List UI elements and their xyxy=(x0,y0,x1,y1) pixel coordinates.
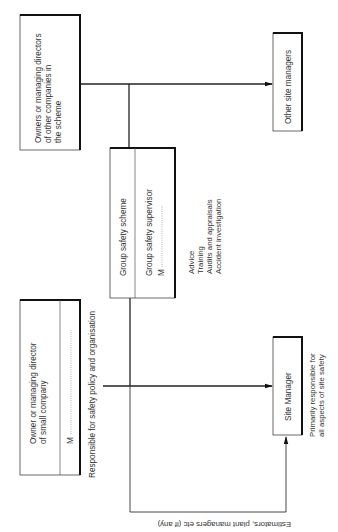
estimators-label: Estimators, plant managers etc (if any) xyxy=(157,520,291,529)
other-site-managers-box: Other site managers xyxy=(273,33,302,131)
site-manager-note: Primarily responsible for all aspects of… xyxy=(308,353,326,437)
group-duties-list: Advice Training Audits and appraisals Ac… xyxy=(187,199,223,274)
responsibility-label: Responsible for safety policy and organi… xyxy=(88,311,97,478)
duty-item: Training xyxy=(196,246,205,274)
site-manager-note-line-1: Primarily responsible for xyxy=(308,353,317,437)
group-scheme-title: Group safety scheme xyxy=(119,198,128,276)
other-site-managers-label: Other site managers xyxy=(284,50,293,124)
other-companies-line-3: the scheme xyxy=(54,100,63,143)
group-supervisor-name-prefix: M xyxy=(157,269,166,276)
other-companies-box: Owners or managing directors of other co… xyxy=(20,15,80,150)
duty-item: Audits and appraisals xyxy=(205,199,214,274)
connector-estimators-loop xyxy=(130,386,286,512)
group-supervisor-label: Group safety supervisor xyxy=(145,189,154,276)
safety-organisation-diagram: Owners or managing directors of other co… xyxy=(0,0,338,532)
duty-item: Accident investigation xyxy=(214,199,223,274)
group-scheme-box: Group safety scheme Group safety supervi… xyxy=(110,148,175,298)
small-company-line-1: Owner or managing director xyxy=(29,342,38,444)
site-manager-box: Site Manager xyxy=(273,337,302,435)
small-company-name-prefix: M xyxy=(66,437,75,444)
duty-item: Advice xyxy=(187,251,196,274)
site-manager-note-line-2: all aspects of site safety xyxy=(317,354,326,437)
other-companies-line-2: of other companies in xyxy=(44,64,53,143)
site-manager-label: Site Manager xyxy=(284,372,293,421)
other-companies-line-1: Owners or managing directors xyxy=(34,33,43,143)
small-company-line-2: of small company xyxy=(39,379,48,444)
small-company-box: Owner or managing director of small comp… xyxy=(20,300,80,475)
